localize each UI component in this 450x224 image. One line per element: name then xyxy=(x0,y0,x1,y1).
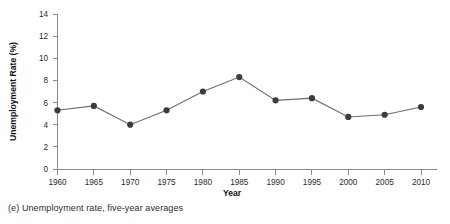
x-tick-label: 1995 xyxy=(303,178,322,187)
y-tick-label: 2 xyxy=(43,143,48,152)
series-line xyxy=(58,77,422,125)
y-tick-label: 14 xyxy=(39,10,49,19)
y-axis-ticks xyxy=(53,14,58,169)
y-tick-label: 0 xyxy=(43,165,48,174)
x-axis: 1960196519701975198019851990199520002005… xyxy=(48,170,437,199)
unemployment-series xyxy=(54,74,424,128)
data-point xyxy=(200,88,206,94)
chart-plot-area: 02468101214 Unemployment Rate (%) 196019… xyxy=(0,0,450,224)
x-axis-title: Year xyxy=(223,188,242,198)
data-point xyxy=(54,107,60,113)
data-point xyxy=(163,107,169,113)
x-tick-label: 1965 xyxy=(85,178,104,187)
y-axis-tick-labels: 02468101214 xyxy=(39,10,49,174)
x-tick-label: 1960 xyxy=(48,178,67,187)
x-tick-label: 1980 xyxy=(194,178,213,187)
x-axis-tick-labels: 1960196519701975198019851990199520002005… xyxy=(48,178,430,187)
x-tick-label: 1985 xyxy=(230,178,249,187)
data-point xyxy=(418,104,424,110)
x-tick-label: 2000 xyxy=(339,178,358,187)
figure-caption: (e) Unemployment rate, five-year average… xyxy=(8,203,183,213)
y-axis: 02468101214 Unemployment Rate (%) xyxy=(8,10,58,174)
y-tick-label: 10 xyxy=(39,54,49,63)
x-tick-label: 2010 xyxy=(412,178,431,187)
unemployment-rate-chart: 02468101214 Unemployment Rate (%) 196019… xyxy=(0,0,450,224)
y-tick-label: 8 xyxy=(43,76,48,85)
x-tick-label: 1990 xyxy=(266,178,285,187)
y-tick-label: 6 xyxy=(43,99,48,108)
y-tick-label: 12 xyxy=(39,32,49,41)
data-point xyxy=(309,95,315,101)
y-axis-title: Unemployment Rate (%) xyxy=(8,42,18,141)
data-point xyxy=(345,114,351,120)
x-tick-label: 1970 xyxy=(121,178,140,187)
y-tick-label: 4 xyxy=(43,121,48,130)
series-markers xyxy=(54,74,424,128)
data-point xyxy=(91,103,97,109)
x-axis-ticks xyxy=(58,170,422,175)
data-point xyxy=(273,97,279,103)
data-point xyxy=(382,112,388,118)
data-point xyxy=(127,122,133,128)
data-point xyxy=(236,74,242,80)
x-tick-label: 2005 xyxy=(376,178,395,187)
x-tick-label: 1975 xyxy=(157,178,176,187)
